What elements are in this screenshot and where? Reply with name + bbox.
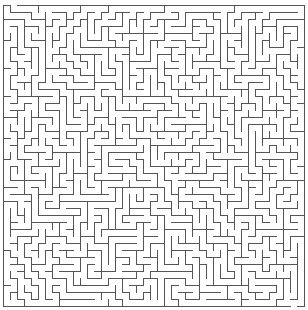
maze-grid	[0, 0, 308, 310]
maze-board: Maze	[0, 0, 308, 310]
